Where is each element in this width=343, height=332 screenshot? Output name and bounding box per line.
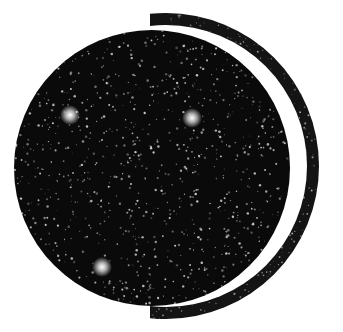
bright-star-icon — [92, 257, 112, 277]
crescent-star-disc-graphic — [0, 0, 343, 332]
bright-star-icon — [182, 108, 202, 128]
star-disc-svg — [0, 0, 343, 332]
bright-star-icon — [60, 105, 80, 125]
